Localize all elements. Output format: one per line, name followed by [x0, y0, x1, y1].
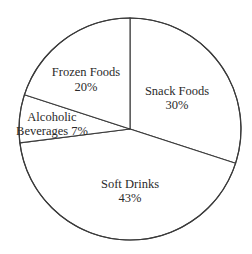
pie-chart: Snack Foods 30% Frozen Foods 20% Alcohol…: [0, 0, 252, 254]
soft-drinks-label: Soft Drinks: [101, 177, 159, 191]
soft-drinks-percent: 43%: [119, 191, 142, 205]
alcoholic-beverages-percent: Beverages 7%: [16, 124, 88, 138]
alcoholic-beverages-label: Alcoholic: [27, 110, 77, 124]
snack-foods-percent: 30%: [166, 98, 189, 112]
frozen-foods-percent: 20%: [75, 80, 98, 94]
frozen-foods-label: Frozen Foods: [52, 65, 121, 79]
snack-foods-label: Snack Foods: [145, 84, 209, 98]
